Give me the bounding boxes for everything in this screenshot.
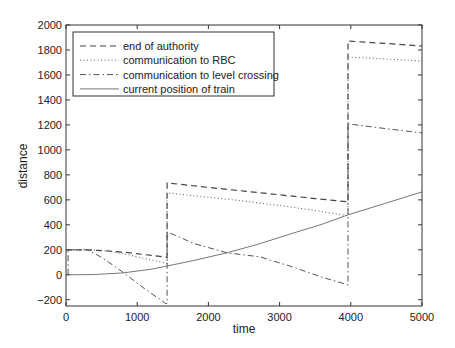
series-line-3 [66, 192, 422, 275]
x-tick-label: 0 [63, 311, 69, 323]
y-tick-label: 600 [44, 194, 62, 206]
x-axis-label: time [233, 322, 256, 336]
x-tick-label: 1000 [125, 311, 149, 323]
legend-label: communication to level crossing [123, 69, 279, 81]
chart-container: 010002000300040005000−200020040060080010… [0, 0, 455, 348]
y-tick-label: 1600 [38, 69, 62, 81]
x-tick-label: 4000 [339, 311, 363, 323]
x-tick-label: 5000 [410, 311, 434, 323]
y-tick-label: 1200 [38, 119, 62, 131]
y-tick-label: 1000 [38, 144, 62, 156]
legend: end of authoritycommunication to RBCcomm… [73, 32, 279, 96]
y-tick-label: 400 [44, 219, 62, 231]
y-tick-label: 800 [44, 169, 62, 181]
y-tick-label: 0 [56, 269, 62, 281]
legend-label: communication to RBC [123, 54, 236, 66]
series-line-2 [68, 124, 422, 304]
y-axis-label: distance [16, 143, 30, 188]
line-chart: 010002000300040005000−200020040060080010… [0, 0, 455, 348]
x-tick-label: 2000 [196, 311, 220, 323]
x-tick-label: 3000 [267, 311, 291, 323]
y-tick-label: 1400 [38, 94, 62, 106]
y-tick-label: −200 [37, 294, 62, 306]
y-tick-label: 200 [44, 244, 62, 256]
y-tick-label: 1800 [38, 44, 62, 56]
y-tick-label: 2000 [38, 19, 62, 31]
legend-label: end of authority [123, 40, 199, 52]
legend-label: current position of train [123, 83, 235, 95]
